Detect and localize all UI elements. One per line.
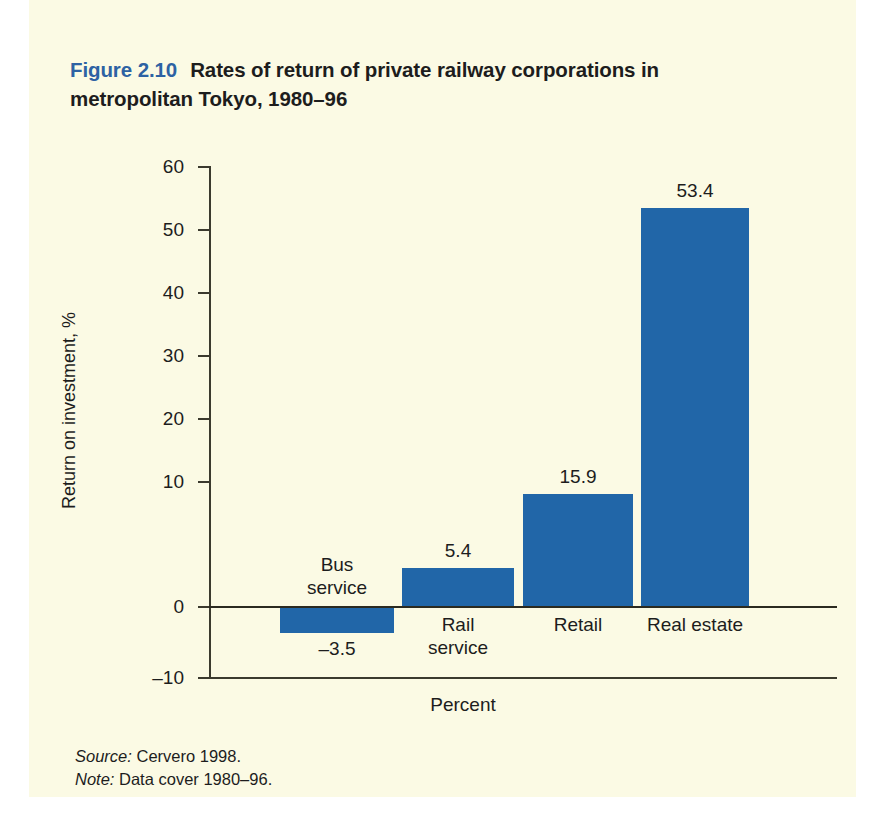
y-tick-label-40: 40 [124,283,184,302]
y-axis-title: Return on investment, % [59,261,80,561]
x-axis-line [209,677,837,679]
category-label-bus-service-line2: service [307,577,367,598]
bar-value-rail-service: 5.4 [398,540,518,562]
source-text: Cervero 1998. [136,747,241,765]
source-note: Source: Cervero 1998. [75,745,241,767]
category-label-bus-service: Bus service [277,553,397,599]
note-text: Data cover 1980–96. [119,770,272,788]
y-tick-label-20: 20 [124,409,184,428]
y-tick-mark-40 [198,292,209,294]
y-tick-mark-50 [198,229,209,231]
y-axis-line [209,166,211,678]
note-label: Note: [75,770,114,788]
category-label-rail-service: Rail service [398,613,518,659]
y-tick-label-0: 0 [124,597,184,616]
figure-panel: Figure 2.10Rates of return of private ra… [29,0,856,797]
data-note: Note: Data cover 1980–96. [75,768,272,790]
category-label-rail-service-line1: Rail [442,614,475,635]
bar-chart: Return on investment, % 60 50 40 30 20 1… [29,0,856,797]
y-tick-mark-20 [198,418,209,420]
bar-real-estate[interactable] [641,208,749,606]
y-tick-label-10: 10 [124,472,184,491]
y-tick-label-50: 50 [124,220,184,239]
bar-value-bus-service: –3.5 [277,638,397,660]
y-tick-label-60: 60 [124,157,184,176]
bar-value-real-estate: 53.4 [635,180,755,202]
figure-page: Figure 2.10Rates of return of private ra… [0,0,893,833]
bar-rail-service[interactable] [402,568,514,606]
y-tick-mark-minus10 [198,677,209,679]
y-tick-mark-30 [198,355,209,357]
y-tick-mark-10 [198,481,209,483]
x-axis-title: Percent [363,694,563,716]
category-label-real-estate: Real estate [625,613,765,636]
category-label-rail-service-line2: service [428,637,488,658]
category-label-bus-service-line1: Bus [321,554,354,575]
y-tick-mark-0 [198,606,209,608]
bar-retail[interactable] [523,494,633,606]
bar-value-retail: 15.9 [518,466,638,488]
y-tick-label-30: 30 [124,346,184,365]
source-label: Source: [75,747,132,765]
category-label-retail: Retail [518,613,638,636]
y-tick-label-minus10: –10 [124,668,184,687]
bar-bus-service[interactable] [280,608,394,633]
y-tick-mark-60 [198,166,209,168]
